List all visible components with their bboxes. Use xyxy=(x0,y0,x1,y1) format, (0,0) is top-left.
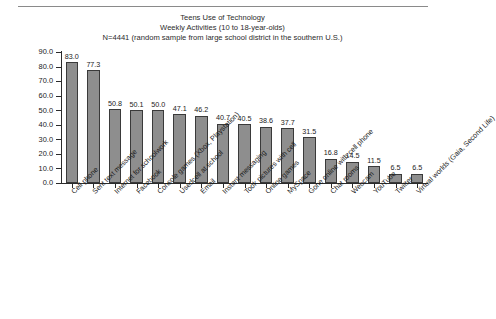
y-tick-label: 0.0 xyxy=(43,179,53,186)
y-tick-mark xyxy=(56,168,61,169)
y-tick-label: 90.0 xyxy=(39,48,53,55)
y-tick-label: 30.0 xyxy=(39,136,53,143)
y-tick-label: 40.0 xyxy=(39,121,53,128)
chart-subtitle-line-2: Weekly Activities (10 to 18-year-olds) xyxy=(0,23,445,33)
y-tick-mark xyxy=(56,139,61,140)
y-axis-title: Percent xyxy=(0,77,1,103)
y-tick-mark xyxy=(56,110,61,111)
y-tick-mark xyxy=(56,96,61,97)
bar-value-label: 77.3 xyxy=(79,61,107,68)
bar-value-label: 83.0 xyxy=(58,53,86,60)
y-tick-label: 20.0 xyxy=(39,150,53,157)
y-tick-label: 70.0 xyxy=(39,77,53,84)
x-axis-category-label: Virtual worlds (Gaia, Second Life) xyxy=(415,114,496,195)
header-divider xyxy=(18,6,428,7)
y-tick-mark xyxy=(56,183,61,184)
y-tick-mark xyxy=(56,154,61,155)
bar-value-label: 31.5 xyxy=(295,128,323,135)
bar-value-label: 6.5 xyxy=(403,164,431,171)
chart-title-line-1: Teens Use of Technology xyxy=(0,13,445,23)
bar-value-label: 46.2 xyxy=(187,106,215,113)
y-tick-mark xyxy=(56,125,61,126)
y-tick-label: 80.0 xyxy=(39,63,53,70)
chart-subtitle-line-3: N=4441 (random sample from large school … xyxy=(0,33,445,43)
y-tick-mark xyxy=(56,81,61,82)
y-tick-label: 10.0 xyxy=(39,165,53,172)
y-tick-label: 50.0 xyxy=(39,107,53,114)
chart-title-block: Teens Use of Technology Weekly Activitie… xyxy=(0,13,445,44)
bar-value-label: 11.5 xyxy=(360,157,388,164)
bar-value-label: 37.7 xyxy=(274,119,302,126)
y-tick-mark xyxy=(56,67,61,68)
bar xyxy=(66,62,79,183)
y-axis-line xyxy=(61,51,62,184)
y-tick-label: 60.0 xyxy=(39,92,53,99)
